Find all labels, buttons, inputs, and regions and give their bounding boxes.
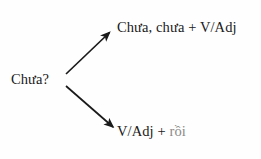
branch-bottom-label: V/Adj + rồi	[117, 124, 186, 139]
branch-bottom-label-prefix: V/Adj +	[117, 123, 169, 139]
diagram-canvas: Chưa? Chưa, chưa + V/Adj V/Adj + rồi	[0, 0, 261, 159]
arrow-up-right-icon	[66, 33, 110, 75]
root-node-label: Chưa?	[11, 72, 49, 87]
branch-bottom-label-muted-token: rồi	[169, 123, 185, 139]
branch-top-label: Chưa, chưa + V/Adj	[117, 20, 237, 35]
arrow-down-right-icon	[66, 86, 113, 127]
